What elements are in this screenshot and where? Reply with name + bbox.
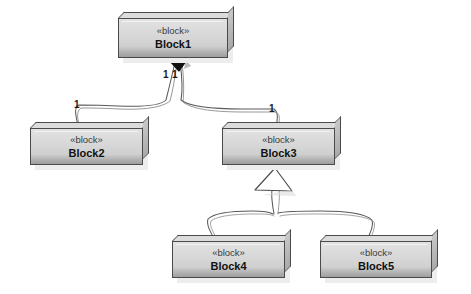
block-stereotype: «block» xyxy=(157,25,190,37)
node-right-face xyxy=(335,116,341,159)
node-right-face xyxy=(432,229,438,272)
multiplicity-label-block1-left: 1 xyxy=(163,70,169,80)
node-front-face: «block» Block3 xyxy=(222,128,335,165)
multiplicity-label-block3: 1 xyxy=(269,104,275,114)
diagram-canvas: «block» Block1 «block» Block2 «block» Bl… xyxy=(0,0,471,294)
multiplicity-label-block2: 1 xyxy=(74,100,80,110)
node-bevel xyxy=(122,21,223,22)
multiplicity-label-block1-right: 1 xyxy=(172,70,178,80)
block-node-block2[interactable]: «block» Block2 xyxy=(30,128,143,165)
block-stereotype: «block» xyxy=(262,134,295,146)
block-name: Block2 xyxy=(68,146,104,160)
block-name: Block3 xyxy=(260,146,296,160)
block-node-block4[interactable]: «block» Block4 xyxy=(172,241,285,278)
block-node-block5[interactable]: «block» Block5 xyxy=(320,241,432,278)
generalization-triangle-icon xyxy=(255,168,297,196)
block-stereotype: «block» xyxy=(70,134,103,146)
node-right-face xyxy=(228,6,234,52)
node-front-face: «block» Block1 xyxy=(118,18,228,58)
node-bevel xyxy=(226,131,330,132)
node-front-face: «block» Block2 xyxy=(30,128,143,165)
node-right-face xyxy=(143,116,149,159)
block-name: Block5 xyxy=(358,259,394,273)
block-name: Block4 xyxy=(210,259,246,273)
block-node-block1[interactable]: «block» Block1 xyxy=(118,18,228,58)
edge-composition-block1-block2[interactable] xyxy=(76,62,177,131)
node-right-face xyxy=(285,229,291,272)
node-bevel xyxy=(176,244,280,245)
node-bevel xyxy=(324,244,427,245)
node-front-face: «block» Block5 xyxy=(320,241,432,278)
block-node-block3[interactable]: «block» Block3 xyxy=(222,128,335,165)
block-stereotype: «block» xyxy=(360,247,393,259)
node-front-face: «block» Block4 xyxy=(172,241,285,278)
node-bevel xyxy=(34,131,138,132)
block-stereotype: «block» xyxy=(212,247,245,259)
block-name: Block1 xyxy=(155,37,191,51)
